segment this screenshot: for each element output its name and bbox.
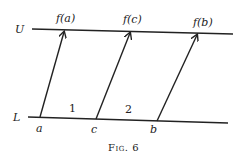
label-fa: f(a) — [56, 13, 75, 24]
arrow-b-to-fb — [157, 35, 197, 121]
interval-label-1: 1 — [69, 103, 76, 114]
label-b: b — [150, 124, 157, 135]
label-fc: f(c) — [123, 14, 142, 25]
interval-label-2: 2 — [125, 104, 132, 115]
label-fb: f(b) — [193, 17, 213, 28]
label-l: L — [13, 112, 20, 123]
label-a: a — [36, 123, 43, 134]
label-c: c — [91, 124, 97, 135]
lower-line-l — [28, 117, 228, 123]
figure-caption: Fig. 6 — [108, 142, 139, 153]
upper-line-u — [32, 29, 233, 34]
arrow-a-to-fa — [40, 32, 64, 117]
label-u: U — [15, 24, 24, 35]
